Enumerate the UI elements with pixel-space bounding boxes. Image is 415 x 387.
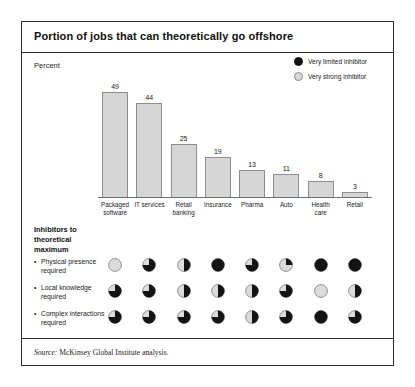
inhibitor-pie-icon [201,310,235,324]
inhibitors-heading-line: maximum [34,245,114,255]
x-axis-tick-label: Retailbanking [167,201,201,217]
bar-value-label: 3 [353,183,357,190]
bar-slot: 3 [338,78,372,198]
bar-slot: 44 [132,78,166,198]
matrix-row-cells [98,284,372,298]
inhibitor-pie-icon [132,284,166,298]
title-band: Portion of jobs that can theoretically g… [22,22,393,53]
inhibitor-pie-icon [269,284,303,298]
matrix-row: •Local knowledgerequired [22,284,393,310]
bar [136,103,162,198]
inhibitor-pie-icon [304,310,338,324]
x-axis-tick-label: Packagedsoftware [98,201,132,217]
bar-slot: 13 [235,78,269,198]
x-axis-tick-label: Insurance [201,201,235,217]
x-axis-labels: PackagedsoftwareIT servicesRetailbanking… [98,201,372,217]
inhibitor-pie-icon [132,258,166,272]
footer-divider [22,338,393,339]
bar [239,170,265,198]
bar-slot: 25 [167,78,201,198]
matrix-row: •Physical presencerequired [22,258,393,284]
bar [308,181,334,198]
bar [102,92,128,198]
inhibitor-matrix: •Physical presencerequired•Local knowled… [22,258,393,336]
x-axis-tick-label: Retail [338,201,372,217]
matrix-row-cells [98,258,372,272]
source-text: McKinsey Global Institute analysis. [59,348,168,357]
bullet-icon: • [34,258,36,267]
bar [171,144,197,198]
inhibitor-pie-icon [235,310,269,324]
unit-label: Percent [34,61,60,70]
inhibitor-pie-icon [98,310,132,324]
inhibitor-pie-icon [338,258,372,272]
bar-value-label: 44 [145,94,153,101]
bar-slot: 19 [201,78,235,198]
page-title: Portion of jobs that can theoretically g… [34,30,293,42]
bar-slot: 11 [269,78,303,198]
inhibitor-pie-icon [304,284,338,298]
inhibitor-pie-icon [201,284,235,298]
bar [205,157,231,198]
bar-value-label: 49 [111,83,119,90]
inhibitor-pie-icon [269,258,303,272]
bar-value-label: 19 [214,148,222,155]
x-axis-tick-label: Pharma [235,201,269,217]
inhibitor-pie-icon [338,310,372,324]
exhibit-panel: Portion of jobs that can theoretically g… [21,21,394,366]
inhibitors-heading-line: Inhibitors to [34,225,114,235]
bar-value-label: 11 [283,165,290,172]
bar-value-label: 13 [248,161,256,168]
bar-value-label: 25 [180,135,188,142]
source-label: Source: [34,348,57,357]
inhibitors-heading: Inhibitors totheoreticalmaximum [34,225,114,255]
inhibitor-pie-icon [338,284,372,298]
inhibitor-pie-icon [167,258,201,272]
inhibitor-pie-icon [167,310,201,324]
bar [273,174,299,198]
inhibitor-pie-icon [235,284,269,298]
bar-slot: 8 [304,78,338,198]
matrix-row-cells [98,310,372,324]
inhibitor-pie-icon [201,258,235,272]
bar-slot: 49 [98,78,132,198]
inhibitor-pie-icon [304,258,338,272]
inhibitor-pie-icon [98,258,132,272]
x-axis-line [98,197,372,198]
bullet-icon: • [34,310,36,319]
inhibitor-pie-icon [98,284,132,298]
filled-circle-icon [294,57,303,66]
x-axis-tick-label: Auto [269,201,303,217]
inhibitor-pie-icon [132,310,166,324]
x-axis-tick-label: IT services [132,201,166,217]
inhibitor-pie-icon [167,284,201,298]
bar-chart: 49442519131183 [98,78,372,198]
bar-value-label: 8 [319,172,323,179]
x-axis-tick-label: Healthcare [304,201,338,217]
matrix-row: •Complex interactionsrequired [22,310,393,336]
legend-item-very-limited-inhibitor: Very limited inhibitor [294,55,390,68]
bar-series: 49442519131183 [98,78,372,198]
bullet-icon: • [34,284,36,293]
legend-item-label: Very limited inhibitor [308,58,367,65]
inhibitor-pie-icon [235,258,269,272]
source-note: Source: McKinsey Global Institute analys… [34,348,169,357]
inhibitors-heading-line: theoretical [34,235,114,245]
inhibitor-pie-icon [269,310,303,324]
